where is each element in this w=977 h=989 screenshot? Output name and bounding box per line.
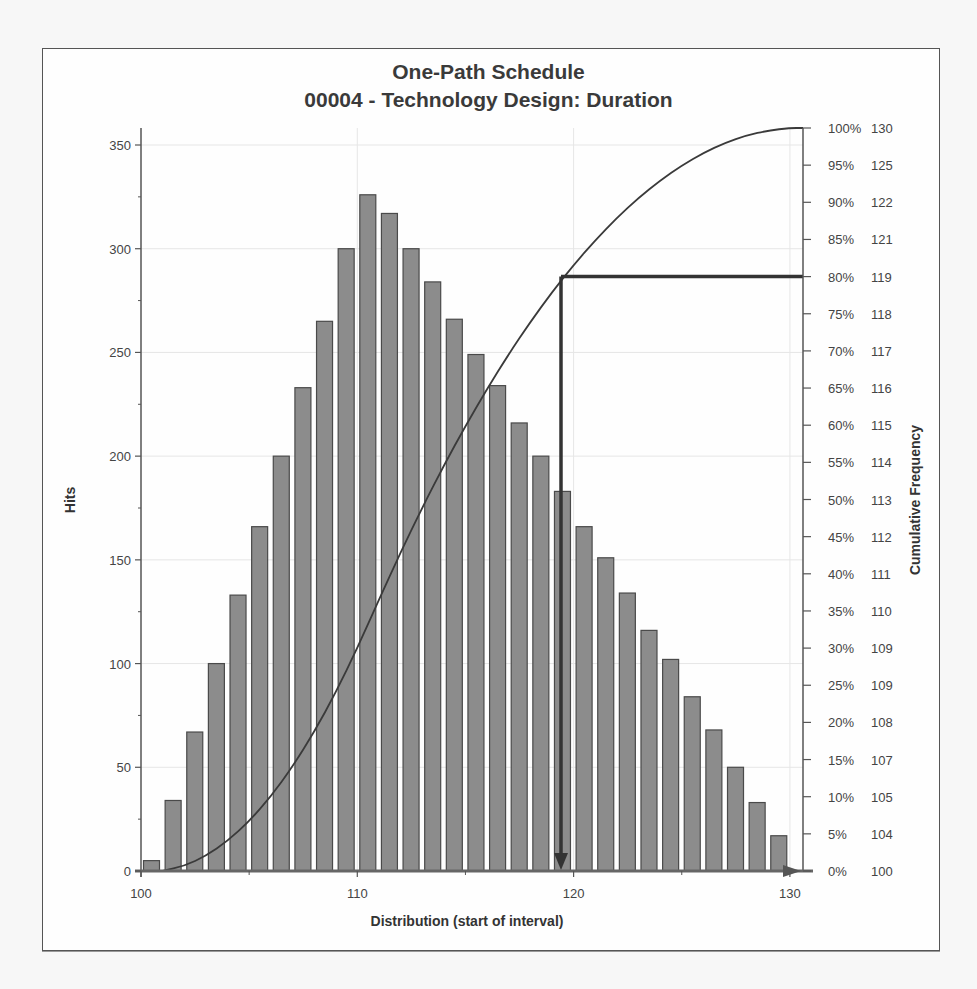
right-tick-duration: 112 [871,530,892,545]
y-tick-label: 300 [109,242,131,257]
right-tick-duration: 108 [871,715,893,730]
histogram-bar [144,861,160,871]
right-tick-percent: 90% [828,195,854,210]
histogram-bar [511,423,527,871]
right-tick-percent: 40% [828,567,854,582]
right-tick-percent: 35% [828,604,854,619]
y-tick-label: 250 [109,345,131,360]
right-tick-percent: 55% [828,455,854,470]
y-tick-label: 100 [109,657,131,672]
y-tick-label: 0 [124,864,131,879]
histogram-bar [381,213,397,871]
right-tick-percent: 0% [828,864,847,879]
histogram-bar [684,697,700,871]
right-tick-duration: 130 [871,121,893,136]
histogram-bar [619,593,635,871]
histogram-bar [360,195,376,871]
right-tick-duration: 107 [871,753,893,768]
histogram-plot: 0501001502002503003501001101201300%1005%… [0,0,977,989]
histogram-bar [446,319,462,871]
histogram-bar [749,803,765,871]
right-tick-percent: 30% [828,641,854,656]
right-tick-percent: 10% [828,790,854,805]
right-tick-percent: 5% [828,827,847,842]
histogram-bar [273,456,289,871]
y-tick-label: 50 [117,760,131,775]
histogram-bar [468,355,484,871]
y-axis-title-right: Cumulative Frequency [907,425,923,575]
right-tick-duration: 110 [871,604,892,619]
histogram-bar [598,558,614,871]
x-tick-label: 110 [347,886,368,901]
right-tick-duration: 122 [871,195,893,210]
right-tick-duration: 125 [871,158,893,173]
right-tick-percent: 85% [828,232,854,247]
histogram-bar [490,386,506,871]
y-tick-label: 150 [109,553,131,568]
right-tick-duration: 114 [871,455,892,470]
right-tick-percent: 75% [828,307,854,322]
right-tick-duration: 109 [871,678,893,693]
right-tick-duration: 117 [871,344,892,359]
x-tick-label: 130 [779,886,801,901]
right-tick-duration: 109 [871,641,893,656]
right-tick-percent: 60% [828,418,854,433]
right-tick-duration: 118 [871,307,892,322]
histogram-bar [533,456,549,871]
y-tick-label: 200 [109,449,131,464]
histogram-bar [252,527,268,871]
histogram-bar [230,595,246,871]
x-tick-label: 100 [130,886,152,901]
right-tick-duration: 105 [871,790,893,805]
right-tick-percent: 15% [828,753,854,768]
right-tick-duration: 115 [871,418,892,433]
histogram-bar [706,730,722,871]
right-tick-percent: 80% [828,270,854,285]
right-tick-percent: 45% [828,530,854,545]
histogram-bar [295,388,311,871]
right-tick-percent: 100% [828,121,862,136]
right-tick-duration: 104 [871,827,893,842]
y-axis-title-left: Hits [62,487,78,514]
histogram-bar [663,659,679,871]
histogram-bar [165,800,181,871]
right-tick-percent: 95% [828,158,854,173]
right-tick-percent: 70% [828,344,854,359]
right-tick-duration: 113 [871,493,892,508]
histogram-bar [425,282,441,871]
right-tick-duration: 121 [871,232,893,247]
x-axis-arrow-icon [783,865,801,877]
y-tick-label: 350 [109,138,131,153]
right-tick-percent: 50% [828,493,854,508]
right-tick-percent: 20% [828,715,854,730]
x-axis-title: Distribution (start of interval) [371,913,564,929]
histogram-bar [317,321,333,871]
right-tick-duration: 100 [871,864,893,879]
right-tick-duration: 119 [871,270,892,285]
right-tick-percent: 25% [828,678,854,693]
histogram-bar [403,249,419,871]
histogram-bar [338,249,354,871]
histogram-bar [576,527,592,871]
right-tick-duration: 116 [871,381,892,396]
histogram-bar [187,732,203,871]
histogram-bar [728,767,744,871]
x-tick-label: 120 [563,886,585,901]
right-tick-percent: 65% [828,381,854,396]
histogram-bar [641,630,657,871]
histogram-bar [208,664,224,871]
right-tick-duration: 111 [871,567,891,582]
